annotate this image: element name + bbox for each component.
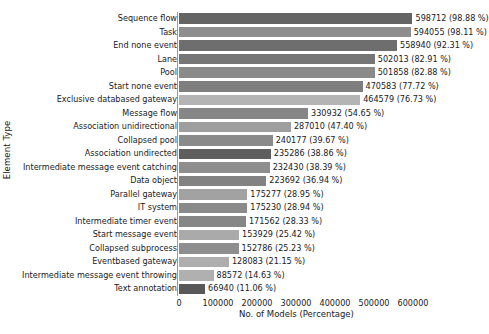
bar-row: Association undirected235286 (38.86 %): [14, 147, 472, 161]
x-axis-tick-label: 300000: [281, 297, 312, 309]
bar-row: End none event558940 (92.31 %): [14, 39, 472, 53]
bar-value-label: 558940 (92.31 %): [400, 39, 473, 53]
bar-value-label: 470583 (77.72 %): [366, 80, 439, 94]
bar-category-label: End none event: [14, 39, 177, 53]
bar: [179, 149, 271, 160]
bar-row: Intermediate message event throwing88572…: [14, 269, 472, 283]
x-axis-tick-label: 200000: [242, 297, 273, 309]
x-axis-tick-label: 400000: [320, 297, 351, 309]
bar-row: Pool501858 (82.88 %): [14, 66, 472, 80]
bar-value-label: 152786 (25.23 %): [242, 242, 315, 256]
bar-category-label: Message flow: [14, 107, 177, 121]
x-axis-tick-label: 0: [176, 297, 181, 309]
bar: [179, 243, 239, 254]
bar: [179, 257, 229, 268]
bar-category-label: Intermediate message event catching: [14, 161, 177, 175]
bar-value-label: 66940 (11.06 %): [208, 282, 276, 296]
bar-category-label: Parallel gateway: [14, 188, 177, 202]
bar-value-label: 464579 (76.73 %): [363, 93, 436, 107]
bar-row: Data object223692 (36.94 %): [14, 174, 472, 188]
bar-value-label: 175277 (28.95 %): [250, 188, 323, 202]
bar-category-label: Start none event: [14, 80, 177, 94]
bar-category-label: Start message event: [14, 228, 177, 242]
bar-row: Exclusive databased gateway464579 (76.73…: [14, 93, 472, 107]
bar-value-label: 240177 (39.67 %): [276, 134, 349, 148]
bar-value-label: 502013 (82.91 %): [378, 53, 451, 67]
bar: [179, 135, 273, 146]
bar-row: Intermediate timer event171562 (28.33 %): [14, 215, 472, 229]
bar-row: Lane502013 (82.91 %): [14, 53, 472, 67]
bar: [179, 189, 247, 200]
bar: [179, 284, 205, 295]
bar-category-label: Collapsed pool: [14, 134, 177, 148]
y-axis-title: Element Type: [0, 0, 14, 300]
x-axis-tick-label: 600000: [398, 297, 429, 309]
x-axis-tick-label: 100000: [203, 297, 234, 309]
bar-value-label: 88572 (14.63 %): [217, 269, 285, 283]
bar: [179, 81, 363, 92]
bar-value-label: 153929 (25.42 %): [242, 228, 315, 242]
x-axis-tick-labels: 0100000200000300000400000500000600000: [0, 297, 472, 309]
bar: [179, 13, 412, 24]
bar: [179, 108, 308, 119]
bar-category-label: Eventbased gateway: [14, 255, 177, 269]
bar-value-label: 287010 (47.40 %): [294, 120, 367, 134]
bar-row: Eventbased gateway128083 (21.15 %): [14, 255, 472, 269]
bar: [179, 122, 291, 133]
bar-category-label: Lane: [14, 53, 177, 67]
bar-category-label: Task: [14, 26, 177, 40]
bar-row: Sequence flow598712 (98.88 %): [14, 12, 472, 26]
bar-row: Intermediate message event catching23243…: [14, 161, 472, 175]
bar-category-label: Collapsed subprocess: [14, 242, 177, 256]
bar-value-label: 594055 (98.11 %): [414, 26, 487, 40]
bar-category-label: Sequence flow: [14, 12, 177, 26]
bar-value-label: 128083 (21.15 %): [232, 255, 305, 269]
bar-category-label: Intermediate message event throwing: [14, 269, 177, 283]
bar-category-label: IT system: [14, 201, 177, 215]
bar-row: IT system175230 (28.94 %): [14, 201, 472, 215]
bar-row: Association unidirectional287010 (47.40 …: [14, 120, 472, 134]
bar-row: Collapsed pool240177 (39.67 %): [14, 134, 472, 148]
y-axis-title-text: Element Type: [2, 121, 12, 180]
bar-value-label: 232430 (38.39 %): [273, 161, 346, 175]
bar: [179, 27, 411, 38]
bar: [179, 162, 270, 173]
bar: [179, 40, 397, 51]
bar: [179, 67, 375, 78]
bar: [179, 216, 246, 227]
bar: [179, 54, 375, 65]
bar-value-label: 175230 (28.94 %): [250, 201, 323, 215]
bar-row: Text annotation66940 (11.06 %): [14, 282, 472, 296]
bar-value-label: 223692 (36.94 %): [269, 174, 342, 188]
bar-row: Collapsed subprocess152786 (25.23 %): [14, 242, 472, 256]
bar: [179, 270, 214, 281]
bar-value-label: 330932 (54.65 %): [311, 107, 384, 121]
bar-value-label: 171562 (28.33 %): [249, 215, 322, 229]
x-axis-title: No. of Models (Percentage): [179, 309, 414, 319]
bar-category-label: Association undirected: [14, 147, 177, 161]
bar-value-label: 235286 (38.86 %): [274, 147, 347, 161]
bar-value-label: 501858 (82.88 %): [378, 66, 451, 80]
bar-category-label: Association unidirectional: [14, 120, 177, 134]
bar: [179, 230, 239, 241]
bar-row: Parallel gateway175277 (28.95 %): [14, 188, 472, 202]
bar-category-label: Exclusive databased gateway: [14, 93, 177, 107]
bar-row: Start none event470583 (77.72 %): [14, 80, 472, 94]
plot-area: Sequence flow598712 (98.88 %)Task594055 …: [14, 12, 472, 296]
bar-row: Start message event153929 (25.42 %): [14, 228, 472, 242]
bar: [179, 95, 360, 106]
bar-category-label: Intermediate timer event: [14, 215, 177, 229]
bar-value-label: 598712 (98.88 %): [415, 12, 488, 26]
x-axis-tick-label: 500000: [359, 297, 390, 309]
bar-row: Task594055 (98.11 %): [14, 26, 472, 40]
bar-row: Message flow330932 (54.65 %): [14, 107, 472, 121]
bar-category-label: Text annotation: [14, 282, 177, 296]
bar: [179, 176, 266, 187]
y-axis-spine: [177, 12, 178, 296]
bar-category-label: Pool: [14, 66, 177, 80]
bar: [179, 203, 247, 214]
bar-category-label: Data object: [14, 174, 177, 188]
